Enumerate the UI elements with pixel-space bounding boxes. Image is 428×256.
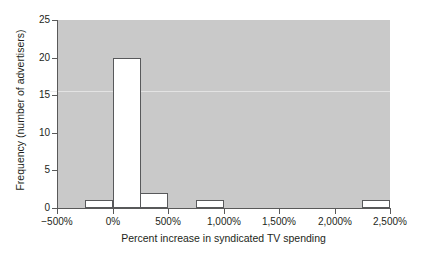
histogram-bar: [113, 58, 141, 208]
y-axis-line: [57, 20, 58, 209]
x-axis-tick: [279, 209, 280, 214]
x-axis-tick: [57, 209, 58, 214]
x-axis-tick: [390, 209, 391, 214]
y-axis-tick-label: 25: [28, 15, 50, 25]
x-axis-tick: [224, 209, 225, 214]
y-axis-tick: [52, 170, 57, 171]
x-axis-tick-label: −500%: [27, 216, 87, 228]
y-axis-tick-label: 0: [28, 203, 50, 213]
x-axis-title: Percent increase in syndicated TV spendi…: [57, 232, 390, 244]
y-axis-tick: [52, 133, 57, 134]
x-axis-tick-label: 0%: [83, 216, 143, 228]
x-axis-tick-label: 1,000%: [194, 216, 254, 228]
x-axis-tick: [168, 209, 169, 214]
y-axis-tick: [52, 20, 57, 21]
histogram-bar: [140, 193, 168, 208]
x-axis-tick: [335, 209, 336, 214]
chart-figure: 0510152025 −500%0%500%1,000%1,500%2,000%…: [0, 0, 428, 256]
y-axis-tick-label: 5: [28, 165, 50, 175]
plot-area: [57, 20, 390, 208]
y-axis-tick: [52, 58, 57, 59]
x-axis-tick-label: 500%: [138, 216, 198, 228]
scan-artifact-line: [57, 91, 390, 92]
histogram-bar: [196, 200, 224, 208]
x-axis-tick-label: 2,500%: [360, 216, 420, 228]
y-axis-tick-label: 10: [28, 128, 50, 138]
x-axis-tick: [113, 209, 114, 214]
histogram-bar: [362, 200, 390, 208]
y-axis-title: Frequency (number of advertisers): [14, 10, 26, 210]
x-axis-tick-label: 1,500%: [249, 216, 309, 228]
x-axis-tick-label: 2,000%: [305, 216, 365, 228]
y-axis-tick: [52, 95, 57, 96]
y-axis-tick-label: 20: [28, 53, 50, 63]
y-axis-tick-label: 15: [28, 90, 50, 100]
histogram-bar: [85, 200, 113, 208]
